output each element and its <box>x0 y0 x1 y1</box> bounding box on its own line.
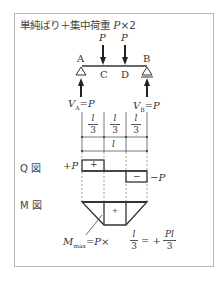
formula-fraction-2: Pl3 <box>163 230 176 251</box>
reaction-a-value: =P <box>80 98 95 109</box>
leader-line <box>86 215 102 235</box>
reaction-arrow-icon <box>78 78 84 97</box>
load-2-label: P <box>121 33 128 43</box>
shear-positive-sign: + <box>90 160 98 169</box>
shear-diagram-label: Q 図 <box>20 160 41 175</box>
formula-mid: =P× <box>86 236 110 247</box>
formula-fraction-1: l3 <box>130 230 138 251</box>
structural-drawing <box>0 0 221 286</box>
pin-support-icon <box>76 67 86 75</box>
point-d-label: D <box>121 70 129 80</box>
fraction-num: l <box>110 114 120 123</box>
moment-positive-sign: + <box>112 208 118 215</box>
shear-negative-value: −P <box>150 173 165 183</box>
reaction-a-label: VA=P <box>68 99 95 111</box>
roller-support-icon <box>141 67 153 77</box>
segment-3-fraction: l3 <box>131 114 141 135</box>
reaction-b-value: =P <box>145 100 160 111</box>
max-moment-symbol: M <box>63 236 73 247</box>
moment-diagram-label: M 図 <box>20 197 42 212</box>
fraction-num: l <box>131 114 141 123</box>
fraction-num: l <box>88 114 98 123</box>
support-b-label: B <box>143 54 150 64</box>
shear-negative-sign: − <box>133 172 141 181</box>
fraction-den: 3 <box>88 126 98 135</box>
fraction-num: Pl <box>163 230 176 239</box>
segment-2-fraction: l3 <box>110 114 120 135</box>
fraction-num: l <box>130 230 138 239</box>
support-a-label: A <box>77 54 84 64</box>
fraction-den: 3 <box>163 242 176 251</box>
shear-positive-value: +P <box>63 161 78 171</box>
max-moment-formula: Mmax=P× <box>63 236 109 249</box>
reaction-arrow-icon <box>144 78 150 97</box>
load-arrow-icon <box>122 45 128 65</box>
fraction-den: 3 <box>130 242 138 251</box>
fraction-den: 3 <box>131 126 141 135</box>
load-1-label: P <box>99 33 106 43</box>
max-moment-sub: max <box>73 242 86 249</box>
total-length-label: l <box>112 140 115 149</box>
formula-equals: = + <box>141 236 161 246</box>
reaction-b-label: VB=P <box>133 101 160 113</box>
fraction-den: 3 <box>110 126 120 135</box>
point-c-label: C <box>100 70 108 80</box>
segment-1-fraction: l3 <box>88 114 98 135</box>
load-arrow-icon <box>100 45 106 65</box>
